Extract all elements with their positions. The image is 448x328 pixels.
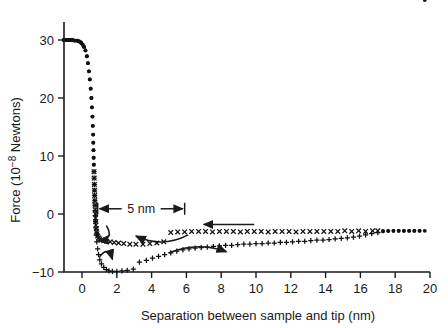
- x-tick-label: 18: [388, 281, 402, 296]
- x-tick-label: 6: [183, 281, 190, 296]
- y-tick-label: −10: [32, 265, 54, 280]
- force-distance-plot: −10010203002468101214161820 5 nm Force (…: [0, 0, 448, 328]
- x-tick-label: 10: [249, 281, 263, 296]
- x-tick-label: 14: [318, 281, 332, 296]
- y-tick-label: 10: [40, 149, 54, 164]
- x-tick-label: 12: [284, 281, 298, 296]
- x-tick-label: 2: [113, 281, 120, 296]
- series-retract: [62, 0, 427, 274]
- x-tick-label: 0: [78, 281, 85, 296]
- retract-curved-arrow-lower: [99, 252, 112, 260]
- x-tick-label: 16: [353, 281, 367, 296]
- y-axis-title: Force (10−8 Newtons): [7, 97, 24, 223]
- data-series-layer: [62, 0, 427, 274]
- chart-figure: −10010203002468101214161820 5 nm Force (…: [0, 0, 448, 328]
- x-tick-label: 20: [423, 281, 437, 296]
- scale-bar-5nm: 5 nm: [98, 201, 185, 217]
- x-tick-label: 8: [218, 281, 225, 296]
- x-tick-label: 4: [148, 281, 155, 296]
- y-tick-label: 0: [47, 207, 54, 222]
- scale-bar-label: 5 nm: [127, 202, 155, 216]
- y-tick-label: 30: [40, 33, 54, 48]
- x-axis-title: Separation between sample and tip (nm): [141, 308, 375, 323]
- retract-curved-arrow-right: [169, 247, 226, 253]
- y-tick-label: 20: [40, 91, 54, 106]
- series-approach: [62, 38, 427, 246]
